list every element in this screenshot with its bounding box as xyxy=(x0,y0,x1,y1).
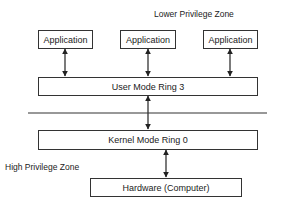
kernel-mode-label: Kernel Mode Ring 0 xyxy=(108,135,188,145)
application-label: Application xyxy=(126,35,170,45)
application-label: Application xyxy=(43,35,87,45)
user-mode-box: User Mode Ring 3 xyxy=(38,77,258,96)
application-box-2: Application xyxy=(120,30,176,49)
user-mode-label: User Mode Ring 3 xyxy=(112,82,185,92)
application-box-3: Application xyxy=(203,30,258,49)
lower-privilege-zone-label: Lower Privilege Zone xyxy=(154,9,234,19)
hardware-label: Hardware (Computer) xyxy=(122,183,209,193)
application-box-1: Application xyxy=(38,30,93,49)
application-label: Application xyxy=(208,35,252,45)
kernel-mode-box: Kernel Mode Ring 0 xyxy=(38,130,258,150)
high-privilege-zone-label: High Privilege Zone xyxy=(5,162,79,172)
hardware-box: Hardware (Computer) xyxy=(90,178,242,197)
